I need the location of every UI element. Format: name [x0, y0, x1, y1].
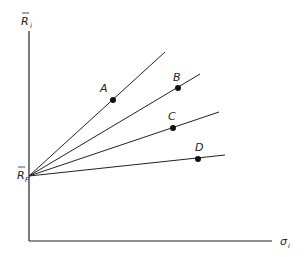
x-axis-label: σ i	[280, 235, 290, 250]
point-d	[195, 156, 201, 162]
point-b	[175, 85, 181, 91]
point-a	[110, 97, 116, 103]
label-d: D	[195, 141, 203, 154]
svg-text:i: i	[288, 242, 290, 250]
label-b: B	[173, 71, 181, 84]
line-c	[29, 112, 219, 176]
y-axis-label: R i	[21, 13, 32, 30]
svg-text:R: R	[17, 169, 25, 182]
label-c: C	[168, 110, 176, 123]
line-a	[29, 52, 165, 176]
svg-text:i: i	[30, 22, 32, 30]
svg-text:σ: σ	[280, 235, 288, 248]
point-c	[170, 125, 176, 131]
risk-free-rate-label: R F	[17, 167, 30, 184]
risk-return-diagram: R i σ i R F A B C D	[0, 0, 306, 257]
label-a: A	[99, 82, 108, 95]
svg-text:R: R	[21, 15, 29, 28]
